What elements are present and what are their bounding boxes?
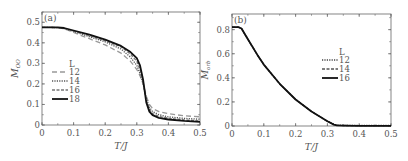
axes-frame xyxy=(232,14,391,126)
y-tick-label: 0.4 xyxy=(26,38,40,48)
legend-label: 16 xyxy=(339,73,350,83)
series-line-L12 xyxy=(42,27,200,116)
legend: L121416 xyxy=(322,47,350,83)
x-axis-label: T/J xyxy=(114,140,129,151)
series-line-L16 xyxy=(232,27,391,126)
y-tick-label: 0.1 xyxy=(26,99,40,109)
chart-figure: 00.10.20.30.40.500.10.20.30.40.5T/JMOO(a… xyxy=(0,0,408,161)
legend-label: 18 xyxy=(69,94,80,104)
x-axis-label: T/J xyxy=(305,141,320,152)
y-tick-label: 0 xyxy=(225,121,230,131)
x-tick-label: 0.4 xyxy=(162,128,176,138)
panel-b: 00.10.20.30.40.500.20.40.60.8T/JMorb(b)L… xyxy=(199,14,398,152)
panel-a: 00.10.20.30.40.500.10.20.30.40.5T/JMOO(a… xyxy=(9,12,207,151)
y-tick-label: 0.4 xyxy=(216,73,230,83)
series-line-L14 xyxy=(42,27,200,119)
series-line-L16 xyxy=(42,27,200,121)
panel-label: (b) xyxy=(234,15,247,25)
x-tick-label: 0 xyxy=(39,128,44,138)
x-tick-label: 0.2 xyxy=(289,129,303,139)
series-line-L18 xyxy=(42,27,200,122)
x-tick-label: 0.3 xyxy=(321,129,335,139)
x-tick-label: 0.4 xyxy=(352,129,366,139)
x-tick-label: 0.5 xyxy=(384,129,398,139)
x-tick-label: 0.2 xyxy=(98,128,112,138)
x-tick-label: 0.1 xyxy=(67,128,81,138)
y-tick-label: 0.2 xyxy=(216,97,230,107)
y-axis-label: Morb xyxy=(199,60,211,81)
legend: L12141618 xyxy=(52,59,80,104)
x-tick-label: 0.3 xyxy=(130,128,144,138)
y-tick-label: 0.8 xyxy=(216,25,230,35)
panel-label: (a) xyxy=(44,13,56,23)
x-tick-label: 0 xyxy=(229,129,234,139)
x-tick-label: 0.1 xyxy=(257,129,271,139)
x-tick-label: 0.5 xyxy=(193,128,207,138)
y-tick-label: 0 xyxy=(35,120,40,130)
y-tick-label: 0.3 xyxy=(26,58,40,68)
y-tick-label: 0.5 xyxy=(26,17,40,27)
y-tick-label: 0.6 xyxy=(216,49,230,59)
y-axis-label: MOO xyxy=(9,59,21,79)
y-tick-label: 0.2 xyxy=(26,79,40,89)
